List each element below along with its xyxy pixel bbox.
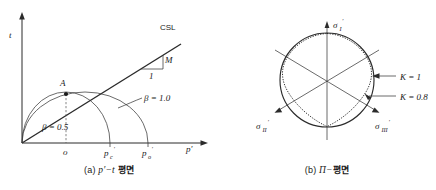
point-a-marker bbox=[64, 92, 68, 96]
panel-a-caption-korean: 평면 bbox=[118, 165, 134, 175]
po-tick-label: p o ′ bbox=[141, 145, 154, 160]
k1-leader bbox=[372, 73, 396, 78]
svg-text:II: II bbox=[262, 126, 268, 133]
sigma-2-label: σ II ′ bbox=[256, 118, 270, 133]
svg-text:p: p bbox=[141, 148, 147, 158]
panel-b-caption-math: Π− bbox=[319, 165, 333, 175]
sigma-1-label: σ I ′ bbox=[333, 17, 344, 32]
slope-run-label: 1 bbox=[149, 71, 154, 81]
svg-text:p: p bbox=[103, 148, 109, 158]
svg-text:σ: σ bbox=[333, 20, 338, 30]
panel-b-caption-tag: (b) bbox=[305, 165, 317, 175]
svg-text:′: ′ bbox=[268, 118, 270, 125]
x-axis-ticks bbox=[110, 143, 148, 147]
panel-a-pt-plane: t p′ CSL M 1 A o p c ′ p o ′ β = 1.0 β =… bbox=[0, 0, 218, 190]
panel-a-caption-tag: (a) bbox=[84, 165, 96, 175]
sigma-3-label: σ III ′ bbox=[375, 118, 391, 133]
svg-text:′: ′ bbox=[389, 118, 391, 125]
panel-a-caption-math: p′−t bbox=[98, 165, 115, 175]
panel-b-caption: (b) Π−평면 bbox=[218, 163, 436, 176]
origin-label: o bbox=[63, 147, 68, 157]
figure-container: t p′ CSL M 1 A o p c ′ p o ′ β = 1.0 β =… bbox=[0, 0, 436, 190]
panel-a-svg: t p′ CSL M 1 A o p c ′ p o ′ β = 1.0 β =… bbox=[0, 0, 218, 190]
t-axis bbox=[19, 12, 25, 143]
p-axis bbox=[22, 140, 208, 146]
beta-1-leader bbox=[118, 98, 142, 108]
svg-text:σ: σ bbox=[375, 121, 380, 131]
yield-curve-beta-1 bbox=[22, 92, 148, 143]
p-axis-label: p′ bbox=[185, 144, 194, 154]
k08-leader bbox=[365, 94, 397, 101]
beta-1-label: β = 1.0 bbox=[143, 93, 171, 103]
svg-text:′: ′ bbox=[114, 145, 116, 152]
pc-tick-label: p c ′ bbox=[103, 145, 116, 160]
svg-text:′: ′ bbox=[152, 145, 154, 152]
k08-label: K = 0.8 bbox=[399, 92, 428, 102]
svg-text:σ: σ bbox=[256, 121, 261, 131]
beta-05-label: β = 0.5 bbox=[41, 122, 69, 132]
p-axis-arrowhead bbox=[201, 140, 209, 146]
csl-label: CSL bbox=[160, 23, 176, 32]
svg-text:′: ′ bbox=[342, 17, 344, 24]
panel-a-caption: (a) p′−t 평면 bbox=[0, 163, 218, 176]
panel-b-pi-plane: σ I ′ σ II ′ σ III ′ K = 1 K = 0.8 (b) Π… bbox=[218, 0, 436, 190]
svg-text:I: I bbox=[339, 25, 343, 32]
sigma-2-arrowhead bbox=[275, 108, 283, 113]
point-a-label: A bbox=[59, 78, 66, 88]
sigma-3-arrowhead bbox=[372, 108, 380, 113]
svg-text:c: c bbox=[110, 153, 113, 160]
t-axis-label: t bbox=[9, 30, 12, 40]
svg-text:o: o bbox=[148, 153, 151, 160]
k1-label: K = 1 bbox=[399, 72, 421, 82]
t-axis-arrowhead bbox=[19, 12, 25, 20]
sigma-1-arrowhead bbox=[325, 21, 330, 28]
panel-b-caption-korean: 평면 bbox=[333, 165, 349, 175]
svg-text:III: III bbox=[381, 126, 389, 133]
slope-rise-label: M bbox=[164, 55, 173, 65]
panel-b-svg: σ I ′ σ II ′ σ III ′ K = 1 K = 0.8 bbox=[218, 0, 436, 190]
